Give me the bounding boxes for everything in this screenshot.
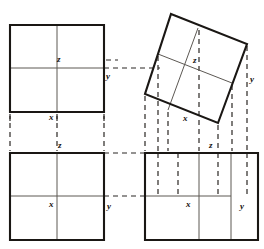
label-tl-x: x: [49, 113, 54, 122]
label-bl-x: x: [49, 200, 54, 209]
label-br-z: z: [209, 141, 213, 150]
figure-canvas: zyxzyxzxyzxy: [0, 0, 264, 249]
panels-group: [10, 14, 258, 240]
label-tl-z: z: [57, 55, 61, 64]
geometry-svg: [0, 0, 264, 249]
label-bl-y: y: [107, 202, 111, 211]
label-br-x: x: [186, 200, 191, 209]
label-bl-z: z: [58, 141, 62, 150]
label-tr-x: x: [183, 114, 188, 123]
label-br-y: y: [240, 202, 244, 211]
label-tr-y: y: [250, 75, 254, 84]
label-tr-z: z: [193, 56, 197, 65]
label-tl-y: y: [106, 72, 110, 81]
rotated-square-top-right-inner-line-1: [168, 28, 198, 110]
